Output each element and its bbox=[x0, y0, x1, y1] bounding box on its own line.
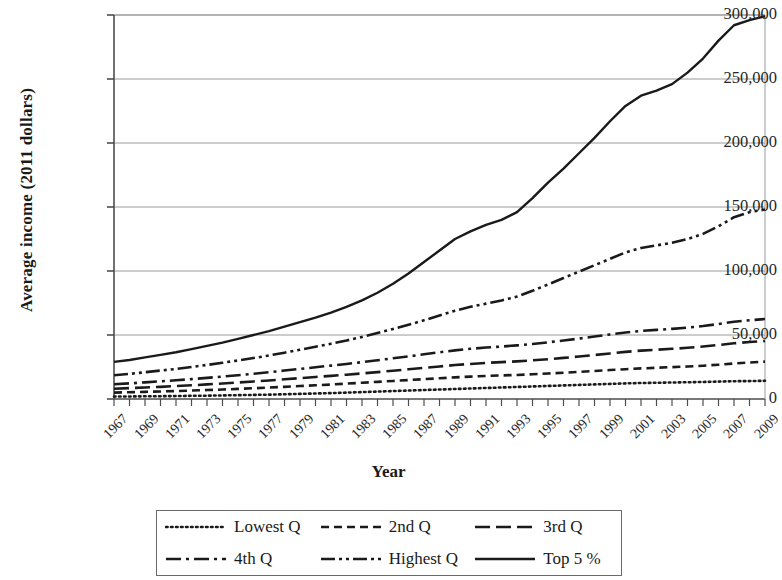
legend-item: 4th Q bbox=[157, 549, 312, 569]
y-tick-label: 0 bbox=[683, 390, 777, 407]
y-tick-label: 50,000 bbox=[683, 326, 777, 343]
legend-item: Lowest Q bbox=[157, 517, 312, 537]
y-tick-label: 250,000 bbox=[683, 70, 777, 87]
gridlines bbox=[114, 15, 765, 335]
series-line bbox=[114, 16, 765, 362]
y-tick-label: 200,000 bbox=[683, 134, 777, 151]
x-axis-title: Year bbox=[0, 462, 777, 482]
legend-item: Highest Q bbox=[312, 549, 467, 569]
y-axis-title: Average income (2011 dollars) bbox=[17, 35, 37, 365]
legend-swatch-dash-dot-dot-icon bbox=[320, 552, 382, 566]
y-tick-label: 100,000 bbox=[683, 262, 777, 279]
legend-swatch-solid-icon bbox=[474, 552, 536, 566]
legend-label: Lowest Q bbox=[234, 517, 301, 537]
y-tick-label: 150,000 bbox=[683, 198, 777, 215]
legend: Lowest Q2nd Q3rd Q4th QHighest QTop 5 % bbox=[156, 510, 622, 576]
data-series bbox=[114, 16, 765, 396]
series-line bbox=[114, 210, 765, 376]
legend-swatch-dash-dot-icon bbox=[165, 552, 227, 566]
x-tick-marks bbox=[114, 399, 765, 406]
legend-label: Top 5 % bbox=[543, 549, 600, 569]
legend-label: 4th Q bbox=[234, 549, 272, 569]
legend-label: Highest Q bbox=[389, 549, 458, 569]
legend-swatch-dashed-short-icon bbox=[320, 520, 382, 534]
legend-item: 3rd Q bbox=[466, 517, 621, 537]
legend-item: 2nd Q bbox=[312, 517, 467, 537]
legend-label: 3rd Q bbox=[543, 517, 582, 537]
legend-item: Top 5 % bbox=[466, 549, 621, 569]
legend-swatch-dashed-long-icon bbox=[474, 520, 536, 534]
y-tick-label: 300,000 bbox=[683, 6, 777, 23]
legend-swatch-dotted-icon bbox=[165, 520, 227, 534]
y-tick-marks bbox=[107, 15, 114, 399]
series-line bbox=[114, 319, 765, 384]
legend-label: 2nd Q bbox=[389, 517, 431, 537]
